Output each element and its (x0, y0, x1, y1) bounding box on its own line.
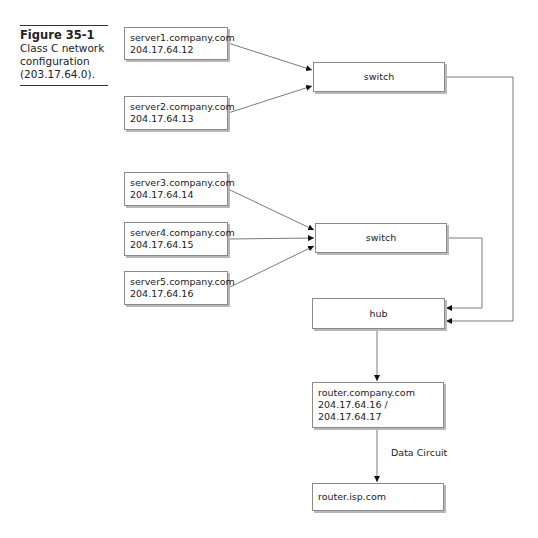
server2-hostname: server2.company.com (130, 101, 222, 113)
router-company-ip-2: 204.17.64.17 (318, 411, 438, 423)
switch2-label: switch (366, 232, 396, 244)
hub-label: hub (369, 308, 387, 320)
server2-ip: 204.17.64.13 (130, 113, 222, 125)
server3-hostname: server3.company.com (130, 177, 222, 189)
node-hub: hub (312, 298, 445, 329)
edge-server5-switch2 (228, 246, 314, 288)
server1-hostname: server1.company.com (130, 32, 222, 44)
router-isp-hostname: router.isp.com (318, 491, 386, 503)
edge-server1-switch1 (228, 43, 312, 70)
edge-server2-switch1 (228, 86, 312, 113)
node-router-isp: router.isp.com (312, 483, 444, 511)
server5-ip: 204.17.64.16 (130, 288, 222, 300)
node-server2: server2.company.com 204.17.64.13 (124, 96, 228, 130)
server3-ip: 204.17.64.14 (130, 189, 222, 201)
edge-switch1-hub (445, 77, 513, 321)
router-company-hostname: router.company.com (318, 387, 438, 399)
node-router-company: router.company.com 204.17.64.16 / 204.17… (312, 382, 444, 428)
data-circuit-label: Data Circuit (391, 447, 447, 458)
node-server1: server1.company.com 204.17.64.12 (124, 27, 228, 60)
server4-ip: 204.17.64.15 (130, 239, 222, 251)
switch1-label: switch (364, 71, 394, 83)
edge-switch2-hub (446, 238, 482, 308)
connection-lines (0, 0, 538, 538)
server4-hostname: server4.company.com (130, 227, 222, 239)
node-server5: server5.company.com 204.17.64.16 (124, 271, 228, 305)
server5-hostname: server5.company.com (130, 276, 222, 288)
node-server3: server3.company.com 204.17.64.14 (124, 172, 228, 206)
node-switch1: switch (313, 62, 445, 92)
node-switch2: switch (315, 223, 447, 253)
edge-server4-switch2 (228, 238, 314, 239)
router-company-ip-1: 204.17.64.16 / (318, 399, 438, 411)
edge-server3-switch2 (228, 189, 314, 230)
server1-ip: 204.17.64.12 (130, 44, 222, 56)
node-server4: server4.company.com 204.17.64.15 (124, 222, 228, 256)
